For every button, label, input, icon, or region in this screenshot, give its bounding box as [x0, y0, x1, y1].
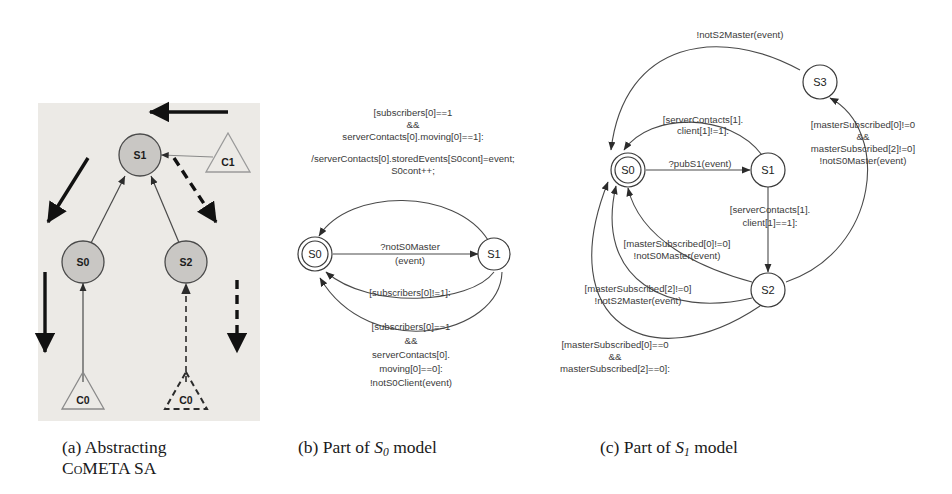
panel-c-node-s0-label: S0	[621, 164, 634, 176]
panel-c-label-s3-s0-l1: !notS2Master(event)	[697, 29, 784, 40]
panel-c-label-s1-s0-upper-l1: [serverContacts[1].	[663, 114, 744, 125]
panel-c-label-s2-s3-l3: masterSubscribed[2]!=0]	[811, 143, 915, 154]
caption-panel-b: (b) Part of S0 model	[298, 437, 437, 463]
panel-c-label-s2-s0-c: [masterSubscribed[0]==0 && masterSubscri…	[560, 339, 670, 374]
panel-c-node-s2[interactable]: S2	[751, 273, 785, 307]
panel-c-label-s2-s3-l1: [masterSubscribed[0]!=0	[811, 119, 915, 130]
caption-panel-c-post: model	[690, 437, 738, 457]
panel-c-label-s2-s0-a-l2: !notS0Master(event)	[634, 250, 721, 261]
caption-panel-b-pre: (b) Part of	[298, 437, 374, 457]
caption-panel-a-line1: (a) Abstracting	[62, 437, 166, 458]
panel-c-label-s2-s0-c-l3: masterSubscribed[2]==0]:	[560, 363, 670, 374]
caption-panel-b-state: S	[374, 437, 383, 457]
panel-c-label-s2-s0-b: [masterSubscribed[2]!=0] !notS2Master(ev…	[585, 283, 692, 306]
panel-c-node-s3-label: S3	[813, 76, 826, 88]
panel-c-label-s2-s3-l4: !notS0Master(event)	[820, 155, 907, 166]
caption-panel-a: (a) Abstracting CoMETA SA	[62, 437, 166, 479]
panel-c-label-s1-s2-l2: client[1]==1]:	[743, 217, 798, 228]
caption-panel-c: (c) Part of S1 model	[600, 437, 738, 463]
edge-c-s2-s0-a	[628, 188, 752, 282]
caption-panel-c-state: S	[675, 437, 684, 457]
panel-c-label-s1-s2: [serverContacts[1]. client[1]==1]:	[730, 204, 811, 228]
caption-panel-b-post: model	[389, 437, 437, 457]
panel-c-node-s0[interactable]: S0	[611, 153, 645, 187]
panel-c-label-s0-s1-l1: ?pubS1(event)	[669, 158, 732, 169]
caption-panel-c-pre: (c) Part of	[600, 437, 675, 457]
panel-c-label-s2-s3: [masterSubscribed[0]!=0 && masterSubscri…	[811, 119, 915, 166]
panel-c-label-s1-s2-l1: [serverContacts[1].	[730, 204, 811, 215]
panel-c-node-s1-label: S1	[761, 164, 774, 176]
panel-c-label-s1-s0-upper: [serverContacts[1]. client[1]!=1]:	[663, 114, 744, 136]
panel-c-label-s2-s0-a-l1: [masterSubscribed[0]!=0]	[624, 238, 731, 249]
panel-c-node-s1[interactable]: S1	[751, 153, 785, 187]
panel-c-label-s2-s0-c-l2: &&	[609, 351, 622, 362]
panel-c-node-s3[interactable]: S3	[803, 65, 837, 99]
panel-c-diagram: S0 S1 S3 S2 !notS2Master(event) [serverC…	[0, 0, 952, 494]
panel-c-label-s0-s1: ?pubS1(event)	[669, 158, 732, 169]
panel-c-label-s2-s0-a: [masterSubscribed[0]!=0] !notS0Master(ev…	[624, 238, 731, 261]
panel-c-label-s3-s0: !notS2Master(event)	[697, 29, 784, 40]
panel-c-label-s1-s0-upper-l2: client[1]!=1]:	[677, 125, 729, 136]
panel-c-label-s2-s0-b-l1: [masterSubscribed[2]!=0]	[585, 283, 692, 294]
figure-root: S1 S0 S2 C1 C0 C0	[0, 0, 952, 494]
panel-c-label-s2-s0-b-l2: !notS2Master(event)	[595, 295, 682, 306]
panel-c-node-s2-label: S2	[761, 284, 774, 296]
caption-panel-a-line2: CoMETA SA	[62, 458, 166, 479]
panel-c-label-s2-s0-c-l1: [masterSubscribed[0]==0	[561, 339, 668, 350]
panel-c-label-s2-s3-l2: &&	[857, 131, 870, 142]
